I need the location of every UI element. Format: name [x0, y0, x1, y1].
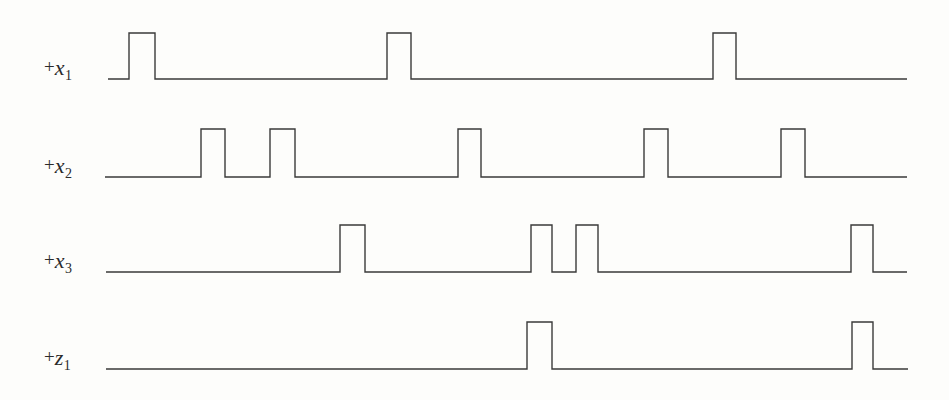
timing-waveform-canvas — [0, 0, 949, 400]
trace-x1 — [108, 33, 907, 79]
timing-diagram-figure: +x1 +x2 +x3 +z1 — [0, 0, 949, 400]
trace-label-subscript: 3 — [64, 261, 72, 276]
trace-label-z1: +z1 — [44, 347, 71, 373]
trace-label-subscript: 2 — [64, 166, 72, 181]
trace-label-variable: z — [55, 345, 64, 370]
trace-label-plus: + — [44, 56, 55, 77]
trace-label-subscript: 1 — [64, 68, 72, 83]
trace-label-x2: +x2 — [44, 155, 72, 181]
trace-label-plus: + — [44, 346, 55, 367]
trace-x3 — [106, 225, 907, 272]
trace-label-x3: +x3 — [44, 250, 72, 276]
trace-label-x1: +x1 — [44, 57, 72, 83]
trace-label-subscript: 1 — [63, 358, 71, 373]
trace-label-plus: + — [44, 154, 55, 175]
trace-x2 — [105, 129, 907, 177]
trace-z1 — [106, 322, 908, 369]
trace-label-plus: + — [44, 249, 55, 270]
